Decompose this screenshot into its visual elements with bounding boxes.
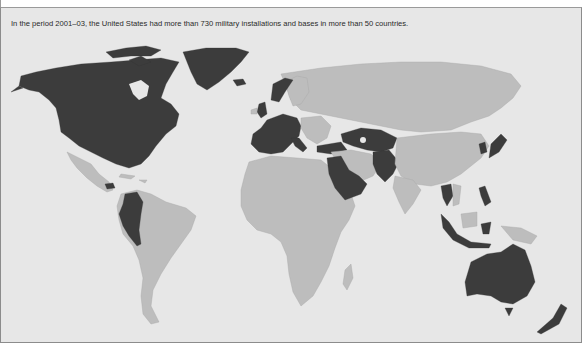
south-america <box>117 190 196 324</box>
new-zealand <box>537 304 567 334</box>
middle-east-central-asia <box>327 128 399 200</box>
australia <box>465 244 535 304</box>
iceland <box>233 79 246 86</box>
north-america <box>11 46 179 192</box>
world-map <box>1 34 581 342</box>
map-caption: In the period 2001–03, the United States… <box>11 19 408 28</box>
asia <box>393 132 537 248</box>
top-strip <box>0 0 582 7</box>
map-panel: In the period 2001–03, the United States… <box>0 7 582 343</box>
tasmania <box>505 308 513 316</box>
madagascar <box>343 264 353 290</box>
